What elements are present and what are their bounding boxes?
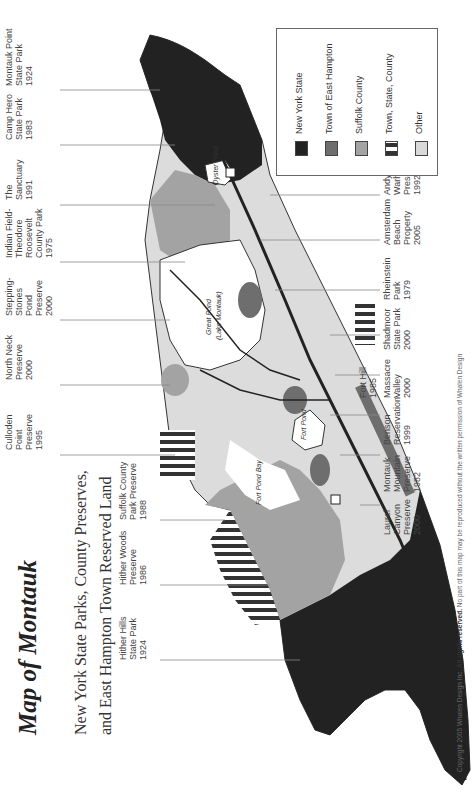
label-line: State Park xyxy=(14,28,24,86)
label-line: Theodore xyxy=(14,208,24,258)
swatch-town-state-county xyxy=(385,141,398,156)
label-line: Point xyxy=(14,414,24,450)
label-benson-reservation: BensonReservation1999 xyxy=(382,397,412,445)
label-line: 1983 xyxy=(24,94,34,140)
label-indian-field: Indian Field-TheodoreRooseveltCounty Par… xyxy=(4,208,54,258)
label-line: 1999 xyxy=(402,397,412,445)
label-massacre-valley: MassacreValley2000 xyxy=(382,359,412,398)
label-line: Roosevelt xyxy=(24,208,34,258)
lake-montauk-label: (Lake Montauk) xyxy=(215,291,222,340)
label-line: 1995 xyxy=(34,414,44,450)
label-line: 2005 xyxy=(412,199,422,245)
label-line: 2000 xyxy=(44,277,54,316)
label-line: Rheinstein xyxy=(382,257,392,300)
label-line: Canyon xyxy=(392,499,402,535)
swatch-other xyxy=(415,141,428,156)
label-fort-hill: Fort Hill1985 xyxy=(358,367,378,398)
label-line: Montauk Point xyxy=(4,28,14,86)
label-line: State Park xyxy=(392,308,402,350)
label-line: Benson xyxy=(382,397,392,445)
label-line: Suffolk County xyxy=(118,462,128,520)
town-patch-1 xyxy=(238,282,262,318)
swatch-town-east-hampton xyxy=(325,141,338,156)
label-montauk-mountain: MontaukMountainPreserve1982 xyxy=(382,455,422,492)
label-line: The xyxy=(4,159,14,200)
label-line: 2000 xyxy=(402,308,412,350)
label-stepping-stones: Stepping-StonesPondPreserve2000 xyxy=(4,277,54,316)
label-line: Shadmoor xyxy=(382,308,392,350)
copyright-notice: Copyright 2005 Whalen Design Inc. All ri… xyxy=(456,354,463,772)
label-line: Mountain xyxy=(392,455,402,492)
copyright-prefix: Copyright 2005 Whalen Design Inc. xyxy=(456,670,463,772)
label-line: Reservation xyxy=(392,397,402,445)
label-line: 1975 xyxy=(44,208,54,258)
fort-pond-bay-label: Fort Pond Bay xyxy=(255,460,262,505)
label-line: North Neck xyxy=(4,335,14,380)
label-line: 2000 xyxy=(412,499,422,535)
label-line: 1982 xyxy=(412,455,422,492)
label-line: Valley xyxy=(392,359,402,398)
label-line: Beach xyxy=(392,199,402,245)
legend-label-town-east-hampton: Town of East Hampton xyxy=(324,43,334,134)
label-line: Amsterdam xyxy=(382,199,392,245)
label-camp-hero: Camp HeroState Park1983 xyxy=(4,94,34,140)
label-hither-woods: Hither WoodsPreserve1986 xyxy=(118,531,148,585)
legend-label-suffolk-county: Suffolk County xyxy=(354,76,364,134)
route-27-shield-1 xyxy=(226,168,235,177)
label-line: Stepping- xyxy=(4,277,14,316)
label-laurel-canyon: LaurelCanyonPreserve2000 xyxy=(382,499,422,535)
label-line: Laurel xyxy=(382,499,392,535)
copyright-bold: All rights reserved. xyxy=(456,609,463,668)
striped-area-shadmoor xyxy=(355,300,375,345)
label-line: 1991 xyxy=(24,159,34,200)
label-line: Park Preserve xyxy=(128,462,138,520)
legend-label-town-state-county: Town, State, County xyxy=(384,53,394,134)
label-line: 1988 xyxy=(138,462,148,520)
label-line: 1924 xyxy=(138,616,148,660)
label-line: Camp Hero xyxy=(4,94,14,140)
label-culloden-point: CullodenPointPreserve1995 xyxy=(4,414,44,450)
label-hither-hills: Hither HillsState Park1924 xyxy=(118,616,148,660)
label-line: Preserve xyxy=(14,335,24,380)
label-line: 1924 xyxy=(24,28,34,86)
town-patch-3 xyxy=(310,454,330,486)
label-line: State Park xyxy=(128,616,138,660)
label-line: Park xyxy=(392,257,402,300)
label-line: Property xyxy=(402,199,412,245)
label-line: 1979 xyxy=(402,257,412,300)
label-rheinstein: RheinsteinPark1979 xyxy=(382,257,412,300)
label-line: Preserve xyxy=(128,531,138,585)
label-amsterdam-beach: AmsterdamBeachProperty2005 xyxy=(382,199,422,245)
label-line: Preserve xyxy=(402,499,412,535)
label-line: Indian Field- xyxy=(4,208,14,258)
label-north-neck: North NeckPreserve2000 xyxy=(4,335,34,380)
label-line: Hither Hills xyxy=(118,616,128,660)
legend-label-other: Other xyxy=(414,111,424,134)
label-line: State Park xyxy=(14,94,24,140)
swatch-suffolk-county xyxy=(355,141,368,156)
route-27-shield-2 xyxy=(331,495,340,504)
town-patch-4 xyxy=(161,364,189,396)
label-line: 2000 xyxy=(402,359,412,398)
label-sanctuary: TheSanctuary1991 xyxy=(4,159,34,200)
label-line: Sanctuary xyxy=(14,159,24,200)
label-line: 1986 xyxy=(138,531,148,585)
label-line: County Park xyxy=(34,208,44,258)
label-line: Pond xyxy=(24,277,34,316)
label-line: Hither Woods xyxy=(118,531,128,585)
label-line: Preserve xyxy=(402,455,412,492)
oyster-pond-label: Oyster Pond xyxy=(212,146,219,185)
label-shadmoor: ShadmoorState Park2000 xyxy=(382,308,412,350)
label-line: Preserve xyxy=(24,414,34,450)
great-pond-label: Great Pond xyxy=(205,299,212,335)
label-line: Culloden xyxy=(4,414,14,450)
label-line: Fort Hill xyxy=(358,367,368,398)
label-line: Massacre xyxy=(382,359,392,398)
fort-pond-label: Fort Pond xyxy=(300,409,307,440)
label-line: Stones xyxy=(14,277,24,316)
label-line: Preserve xyxy=(34,277,44,316)
label-line: 2000 xyxy=(24,335,34,380)
swatch-new-york-state xyxy=(295,141,308,156)
legend-label-new-york-state: New York State xyxy=(294,72,304,134)
label-line: Montauk xyxy=(382,455,392,492)
